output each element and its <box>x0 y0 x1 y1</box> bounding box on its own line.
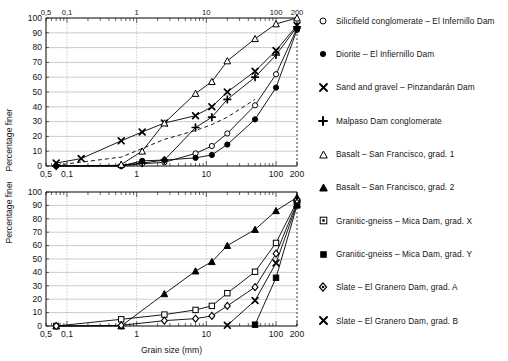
legend-item-label: Diorite – El Infiernillo Dam <box>336 50 434 58</box>
svg-text:0,1: 0,1 <box>61 329 73 339</box>
svg-text:1: 1 <box>134 169 139 179</box>
svg-text:200: 200 <box>290 169 305 179</box>
svg-text:200: 200 <box>290 329 305 339</box>
legend-item-2: Sand and gravel – Pinzandarán Dam <box>316 81 475 95</box>
legend-item-label: Malpaso Dam conglomerate <box>336 117 442 125</box>
cross-x-icon <box>316 81 330 95</box>
figure-root: 01020304050607080901000,50,50,10,1111010… <box>0 0 508 361</box>
svg-text:40: 40 <box>32 267 42 277</box>
svg-text:1: 1 <box>134 329 139 339</box>
lower-chart-svg: 01020304050607080901000,50,1110100200Per… <box>0 182 316 361</box>
legend-item-label: Basalt – San Francisco, grad. 1 <box>336 150 454 158</box>
svg-text:40: 40 <box>32 102 42 112</box>
svg-text:10: 10 <box>32 307 42 317</box>
svg-text:20: 20 <box>32 131 42 141</box>
svg-text:80: 80 <box>32 42 42 52</box>
legend-item-0: Silicifield conglomerate – El Infernillo… <box>316 14 495 28</box>
svg-text:10: 10 <box>202 169 212 179</box>
svg-text:0,5: 0,5 <box>40 329 52 339</box>
legend: Silicifield conglomerate – El Infernillo… <box>316 0 508 361</box>
svg-text:10: 10 <box>202 8 210 17</box>
svg-text:70: 70 <box>32 57 42 67</box>
series-4 <box>118 15 300 168</box>
svg-text:50: 50 <box>32 254 42 264</box>
x-axis-label: Grain size (mm) <box>141 345 202 355</box>
filled-circle-icon <box>316 47 330 61</box>
legend-item-4: Basalt – San Francisco, grad. 1 <box>316 147 454 161</box>
upper-chart-panel: 01020304050607080901000,50,50,10,1111010… <box>0 0 316 182</box>
svg-text:60: 60 <box>32 72 42 82</box>
filled-square-icon <box>316 247 330 261</box>
open-circle-icon <box>316 14 330 28</box>
legend-item-label: Slate – El Granero Dam, grad. A <box>336 283 458 291</box>
legend-item-9: Slate – El Granero Dam, grad. B <box>316 314 458 328</box>
legend-item-7: Granitic-gneiss – Mica Dam, grad. Y <box>316 247 472 261</box>
filled-triangle-icon <box>316 181 330 195</box>
svg-text:90: 90 <box>32 28 42 38</box>
svg-text:80: 80 <box>32 214 42 224</box>
svg-text:100: 100 <box>28 187 43 197</box>
svg-text:1: 1 <box>135 8 139 17</box>
plus-icon <box>316 114 330 128</box>
legend-item-8: Slate – El Granero Dam, grad. A <box>316 280 458 294</box>
y-axis-label: Percentage finer <box>4 108 14 171</box>
legend-item-label: Granitic-gneiss – Mica Dam, grad. X <box>336 217 472 225</box>
legend-item-label: Sand and gravel – Pinzandarán Dam <box>336 83 475 91</box>
series-3 <box>53 24 300 170</box>
legend-item-1: Diorite – El Infiernillo Dam <box>316 47 434 61</box>
svg-text:10: 10 <box>32 146 42 156</box>
open-square-icon <box>316 214 330 228</box>
svg-text:0,1: 0,1 <box>61 169 73 179</box>
svg-text:10: 10 <box>202 329 212 339</box>
bold-x-icon <box>316 314 330 328</box>
svg-text:20: 20 <box>32 294 42 304</box>
svg-text:60: 60 <box>32 240 42 250</box>
svg-text:100: 100 <box>269 329 284 339</box>
svg-text:0,5: 0,5 <box>40 169 52 179</box>
svg-text:0,1: 0,1 <box>62 8 73 17</box>
svg-text:70: 70 <box>32 227 42 237</box>
y-axis-label: Percentage finer <box>4 182 14 244</box>
legend-item-5: Basalt – San Francisco, grad. 2 <box>316 181 454 195</box>
legend-item-label: Slate – El Granero Dam, grad. B <box>336 317 458 325</box>
open-diamond-icon <box>316 280 330 294</box>
svg-text:0,5: 0,5 <box>41 8 52 17</box>
upper-chart-svg: 01020304050607080901000,50,50,10,1111010… <box>0 0 316 182</box>
series-0 <box>53 194 300 329</box>
series-1 <box>53 199 299 329</box>
svg-text:50: 50 <box>32 87 42 97</box>
legend-item-label: Granitic-gneiss – Mica Dam, grad. Y <box>336 250 472 258</box>
svg-text:30: 30 <box>32 116 42 126</box>
legend-item-3: Malpaso Dam conglomerate <box>316 114 442 128</box>
svg-text:30: 30 <box>32 281 42 291</box>
svg-text:100: 100 <box>270 8 283 17</box>
open-triangle-icon <box>316 147 330 161</box>
svg-text:100: 100 <box>269 169 284 179</box>
legend-item-label: Silicifield conglomerate – El Infernillo… <box>336 17 495 25</box>
legend-item-label: Basalt – San Francisco, grad. 2 <box>336 183 454 191</box>
lower-chart-panel: 01020304050607080901000,50,1110100200Per… <box>0 182 316 361</box>
legend-item-6: Granitic-gneiss – Mica Dam, grad. X <box>316 214 472 228</box>
svg-text:90: 90 <box>32 200 42 210</box>
